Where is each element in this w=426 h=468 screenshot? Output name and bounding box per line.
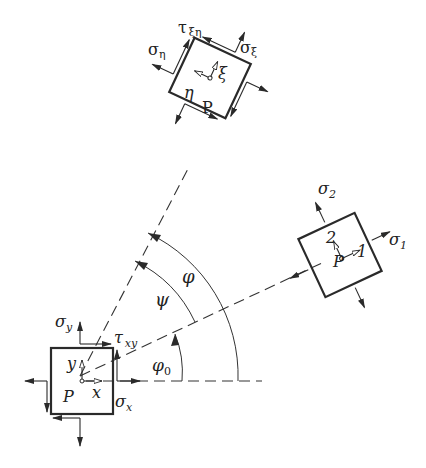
phi0-arrowhead-icon (171, 334, 179, 346)
sigma-eta-label: ση (148, 40, 166, 61)
sigma-1-arrow-right (372, 232, 390, 240)
phi-label: φ (182, 266, 195, 287)
sigma-2-arrow-up (315, 202, 324, 222)
rotated-element-labels: ξ η P σξ ση τξη (148, 18, 257, 117)
eta-axis-label: η (184, 83, 194, 102)
sigma-eta-arrow-left (152, 64, 173, 74)
sigma-1-label: σ1 (389, 230, 407, 252)
y-axis-label: y (66, 354, 77, 373)
axis-1-label: 1 (357, 242, 367, 261)
sigma-2-arrow-down (355, 288, 364, 308)
base-point-label: P (62, 387, 74, 406)
principal-point-label: P (332, 252, 344, 271)
psi-arrowhead-icon (135, 261, 148, 270)
xi-axis-label: ξ (218, 64, 228, 83)
sigma-1-arrow-left (290, 270, 308, 278)
xi-axis-arrow (211, 62, 218, 77)
sigma-x-label: σx (115, 392, 133, 414)
rotated-element (134, 3, 286, 154)
x-axis-label: x (92, 383, 101, 402)
axis-2-label: 2 (325, 228, 336, 247)
rotated-point-marker (207, 75, 212, 80)
angle-arcs: φ0 ψ φ (135, 233, 238, 381)
sigma-eta-arrow-right (247, 82, 268, 92)
reference-lines (80, 165, 324, 381)
sigma-xi-arrow-down (175, 104, 184, 124)
tau-xy-label: τxy (114, 328, 138, 350)
principal-element-labels: 2 1 P σ1 σ2 (318, 179, 407, 271)
sigma-xi-label: σξ (240, 38, 257, 59)
phi0-label: φ0 (152, 355, 171, 378)
eta-axis-arrow (195, 71, 209, 77)
tau-xieta-label: τξη (178, 18, 202, 39)
phi-arrowhead-icon (148, 233, 161, 242)
rotated-point-label: P (202, 98, 213, 117)
base-point-marker (80, 379, 84, 383)
sigma-2-label: σ2 (318, 179, 336, 201)
psi-label: ψ (155, 289, 170, 310)
base-element: x y P σx σy τxy (25, 312, 140, 446)
sigma-y-label: σy (55, 312, 73, 334)
stress-transformation-diagram: φ0 ψ φ x y P σx σy τxy (0, 0, 426, 468)
